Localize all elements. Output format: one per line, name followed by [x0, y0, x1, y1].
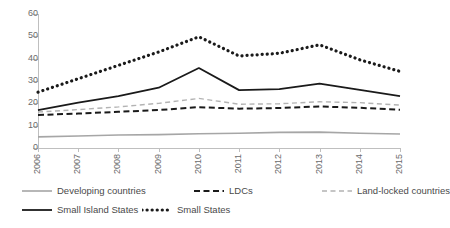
series-line [38, 37, 400, 92]
legend-item[interactable]: Small States [142, 201, 230, 219]
x-tick [320, 148, 321, 152]
legend-swatch-icon [22, 205, 52, 215]
legend-label: Small Island States [57, 205, 138, 215]
y-tick-label: 40 [14, 54, 38, 63]
x-tick [159, 148, 160, 152]
x-tick [118, 148, 119, 152]
y-tick-label: 60 [14, 9, 38, 18]
x-tick [239, 148, 240, 152]
x-tick-label: 2015 [395, 154, 404, 174]
x-tick-label: 2010 [194, 154, 203, 174]
series-line [38, 98, 400, 112]
legend-row-1: Developing countriesLDCsLand-locked coun… [22, 182, 402, 200]
chart-legend: Developing countriesLDCsLand-locked coun… [22, 182, 402, 224]
x-tick [199, 148, 200, 152]
y-tick-label: 50 [14, 31, 38, 40]
x-tick-label: 2009 [154, 154, 163, 174]
x-tick [279, 148, 280, 152]
x-tick [400, 148, 401, 152]
x-tick-label: 2012 [274, 154, 283, 174]
x-tick-label: 2014 [355, 154, 364, 174]
y-tick-label: 10 [14, 121, 38, 130]
legend-label: Developing countries [57, 186, 146, 196]
legend-item[interactable]: Small Island States [22, 201, 138, 219]
x-tick-label: 2006 [33, 154, 42, 174]
y-tick-label: 0 [14, 143, 38, 152]
legend-swatch-icon [194, 186, 224, 196]
x-tick [78, 148, 79, 152]
legend-item[interactable]: Developing countries [22, 182, 146, 200]
legend-swatch-icon [142, 205, 172, 215]
x-tick [360, 148, 361, 152]
legend-swatch-icon [22, 186, 52, 196]
x-tick-label: 2013 [315, 154, 324, 174]
series-line [38, 68, 400, 110]
legend-label: LDCs [229, 186, 253, 196]
y-axis-line [38, 14, 39, 149]
series-line [38, 106, 400, 114]
x-tick-label: 2007 [73, 154, 82, 174]
y-tick-label: 20 [14, 98, 38, 107]
legend-label: Land-locked countries [357, 186, 450, 196]
y-tick-label: 30 [14, 76, 38, 85]
x-tick-label: 2008 [113, 154, 122, 174]
legend-row-2: Small Island StatesSmall States [22, 201, 402, 219]
x-tick [38, 148, 39, 152]
legend-label: Small States [177, 205, 230, 215]
legend-swatch-icon [322, 186, 352, 196]
x-axis-line [38, 148, 400, 149]
legend-item[interactable]: LDCs [194, 182, 253, 200]
x-tick-label: 2011 [234, 154, 243, 173]
series-line [38, 132, 400, 137]
legend-item[interactable]: Land-locked countries [322, 182, 450, 200]
